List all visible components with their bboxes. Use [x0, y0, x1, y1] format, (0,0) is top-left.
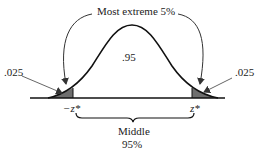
left-critical-value: −z* [63, 103, 80, 114]
right-critical-value: z* [190, 103, 200, 114]
middle-label: Middle [118, 126, 150, 137]
middle-brace [76, 113, 194, 122]
center-area-label: .95 [122, 52, 136, 63]
left-tail-label: .025 [4, 67, 23, 78]
arrow-left-025 [22, 76, 62, 93]
arrow-right-025 [204, 78, 232, 92]
middle-percent-label: 95% [122, 139, 142, 150]
right-tail-label: .025 [235, 67, 254, 78]
title-label: Most extreme 5% [97, 6, 175, 17]
arrow-left-curved [64, 14, 92, 84]
arrow-right-curved [178, 14, 203, 84]
normal-distribution-diagram: Most extreme 5% .95 .025 .025 −z* z* Mid… [0, 0, 265, 157]
